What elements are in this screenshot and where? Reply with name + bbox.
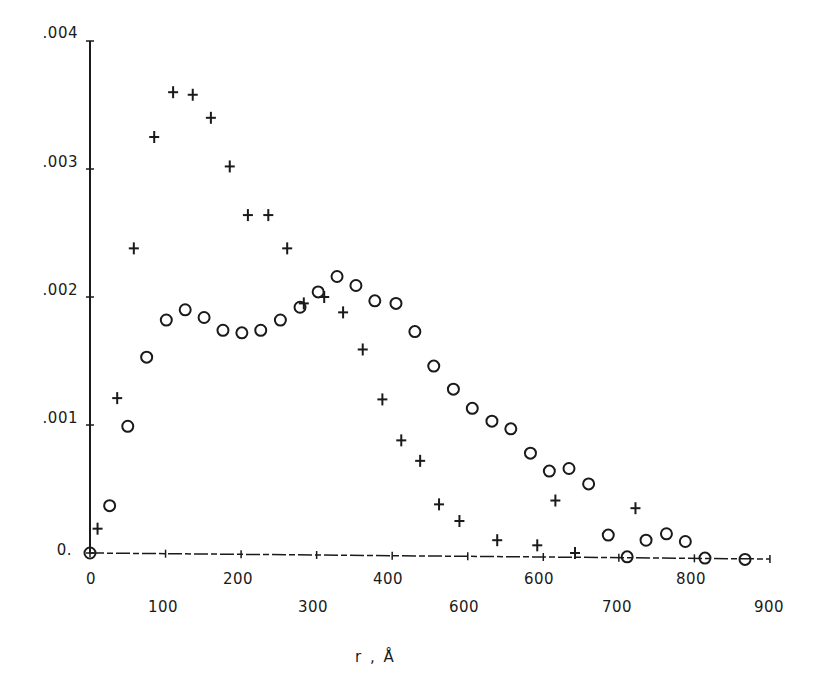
y-tick-label-0.002: .002: [18, 281, 78, 299]
plus-marker: [454, 515, 464, 527]
plus-marker: [282, 242, 292, 254]
y-tick-label-0.004: .004: [18, 24, 78, 42]
x-tick-label-400: 400: [358, 570, 418, 588]
circle-marker: [199, 312, 210, 323]
x-tick-label-800: 800: [661, 570, 721, 588]
plus-marker: [377, 393, 387, 405]
x-axis-title: r , Å: [355, 648, 396, 666]
plus-marker: [129, 242, 139, 254]
circle-marker: [661, 528, 672, 539]
x-tick-label-500: 600: [434, 598, 494, 616]
plus-marker: [415, 455, 425, 467]
plus-marker: [225, 160, 235, 172]
plus-marker: [630, 502, 640, 514]
circle-series: [85, 271, 751, 565]
x-tick-label-300: 300: [283, 598, 343, 616]
circle-marker: [275, 315, 286, 326]
plus-marker: [358, 343, 368, 355]
plus-marker: [188, 89, 198, 101]
circle-marker: [122, 421, 133, 432]
circle-marker: [409, 326, 420, 337]
circle-marker: [563, 463, 574, 474]
plus-marker: [263, 209, 273, 221]
circle-marker: [390, 298, 401, 309]
circle-marker: [486, 416, 497, 427]
axes: [86, 41, 770, 563]
plus-marker: [93, 523, 103, 535]
x-tick-label-600: 600: [509, 570, 569, 588]
circle-marker: [622, 551, 633, 562]
circle-marker: [313, 286, 324, 297]
circle-marker: [641, 535, 652, 546]
plus-marker: [168, 86, 178, 98]
circle-marker: [217, 325, 228, 336]
y-tick-label-0: 0.: [12, 541, 72, 559]
circle-marker: [448, 384, 459, 395]
y-tick-label-0.003: .003: [18, 153, 78, 171]
circle-marker: [583, 478, 594, 489]
plus-marker: [492, 534, 502, 546]
circle-marker: [180, 304, 191, 315]
circle-marker: [332, 271, 343, 282]
x-tick-label-700: 700: [587, 598, 647, 616]
circle-marker: [525, 448, 536, 459]
circle-marker: [544, 466, 555, 477]
x-axis-line: [90, 553, 770, 559]
y-tick-label-0.001: .001: [18, 409, 78, 427]
circle-marker: [680, 536, 691, 547]
plus-marker: [112, 392, 122, 404]
x-tick-label-100: 100: [133, 598, 193, 616]
x-tick-label-900: 900: [739, 598, 799, 616]
circle-marker: [236, 327, 247, 338]
circle-marker: [104, 500, 115, 511]
x-tick-label-200: 200: [208, 570, 268, 588]
circle-marker: [350, 280, 361, 291]
plus-series: [93, 86, 641, 559]
circle-marker: [255, 325, 266, 336]
circle-marker: [603, 530, 614, 541]
circle-marker: [369, 295, 380, 306]
circle-marker: [161, 315, 172, 326]
plus-marker: [206, 112, 216, 124]
plus-marker: [396, 434, 406, 446]
plus-marker: [149, 131, 159, 143]
plus-marker: [338, 306, 348, 318]
circle-marker: [505, 423, 516, 434]
circle-marker: [467, 403, 478, 414]
plus-marker: [532, 539, 542, 551]
plus-marker: [550, 495, 560, 507]
x-tick-label-0: 0: [61, 570, 121, 588]
plus-marker: [243, 209, 253, 221]
plus-marker: [434, 498, 444, 510]
circle-marker: [141, 352, 152, 363]
circle-marker: [428, 361, 439, 372]
